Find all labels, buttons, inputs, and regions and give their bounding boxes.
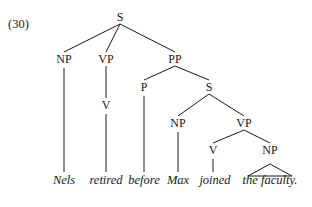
word-max: Max [167, 174, 189, 186]
word-the-faculty: the faculty. [243, 174, 298, 186]
syntax-tree-diagram: (30) S NP VP PP V P S NP VP V NP Nels re… [0, 0, 312, 207]
node-pp: PP [168, 53, 181, 65]
node-np-subject: NP [56, 53, 71, 65]
node-p: P [141, 81, 148, 93]
word-before: before [128, 174, 159, 186]
node-vp-embedded: VP [236, 117, 251, 129]
node-v-embedded: V [209, 144, 218, 156]
node-np-embedded-subject: NP [170, 117, 185, 129]
node-vp-main: VP [98, 53, 113, 65]
example-number: (30) [8, 17, 29, 32]
node-np-object: NP [262, 144, 277, 156]
node-v-main: V [102, 99, 111, 111]
node-s-embedded: S [206, 81, 213, 93]
word-joined: joined [199, 174, 230, 186]
word-retired: retired [89, 174, 122, 186]
node-s-root: S [117, 11, 124, 23]
word-nels: Nels [53, 174, 75, 186]
